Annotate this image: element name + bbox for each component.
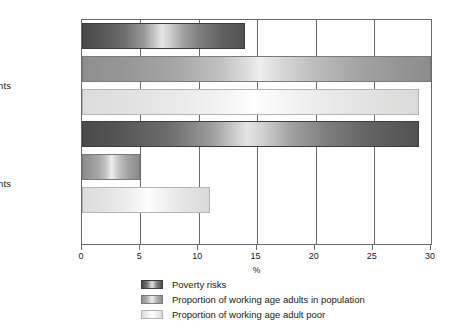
bar-couple-parents-series-1: [82, 56, 431, 82]
legend-label-2: Proportion of working age adult poor: [172, 309, 325, 320]
category-label-couple-parents: Couple parents: [0, 80, 11, 91]
x-tick-label-10: 10: [192, 251, 202, 261]
x-tick-label-20: 20: [309, 251, 319, 261]
bar-chart: Couple parents Lone parents 051015202530…: [0, 0, 449, 331]
bar-lone-parents-series-2: [82, 187, 210, 213]
legend-item-poverty-risks[interactable]: Poverty risks: [141, 277, 431, 291]
x-tick-mark-5: [139, 245, 140, 250]
x-tick-mark-20: [314, 245, 315, 250]
x-tick-mark-10: [197, 245, 198, 250]
legend-label-0: Poverty risks: [172, 279, 226, 290]
bar-couple-parents-series-2: [82, 89, 419, 115]
x-axis-title: %: [81, 265, 432, 275]
legend: Poverty risks Proportion of working age …: [141, 277, 431, 322]
x-tick-label-15: 15: [250, 251, 260, 261]
x-tick-mark-30: [430, 245, 431, 250]
x-tick-label-0: 0: [78, 251, 83, 261]
bar-couple-parents-series-0: [82, 23, 245, 49]
x-tick-mark-15: [256, 245, 257, 250]
legend-item-working-age-adult-poor[interactable]: Proportion of working age adult poor: [141, 307, 431, 321]
x-tick-mark-0: [81, 245, 82, 250]
x-tick-label-30: 30: [425, 251, 435, 261]
legend-swatch-icon-2: [141, 310, 163, 319]
plot-area: [81, 19, 432, 245]
bars-layer: [82, 20, 431, 244]
x-axis: 051015202530: [81, 245, 432, 250]
x-tick-mark-25: [372, 245, 373, 250]
legend-item-working-age-adults-in-population[interactable]: Proportion of working age adults in popu…: [141, 292, 431, 306]
legend-swatch-icon-1: [141, 295, 163, 304]
x-tick-label-25: 25: [367, 251, 377, 261]
legend-label-1: Proportion of working age adults in popu…: [172, 294, 365, 305]
legend-swatch-icon-0: [141, 280, 163, 289]
x-tick-label-5: 5: [137, 251, 142, 261]
bar-lone-parents-series-1: [82, 154, 140, 180]
bar-lone-parents-series-0: [82, 121, 419, 147]
category-label-lone-parents: Lone parents: [0, 178, 11, 189]
